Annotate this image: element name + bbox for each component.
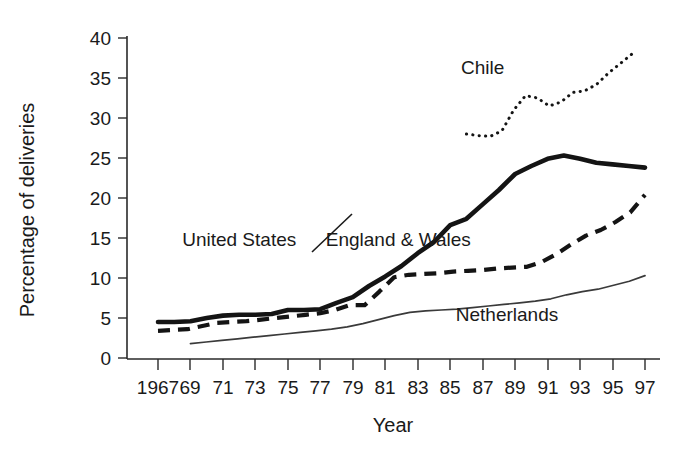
chart-canvas: Percentage of deliveries 40 35 30 25 20 …	[0, 0, 688, 457]
series-line-netherlands	[190, 276, 645, 344]
y-axis-ticks	[118, 38, 127, 358]
x-tick-label-85: 85	[439, 377, 460, 398]
y-tick-label-15: 15	[90, 228, 111, 249]
x-tick-label-97: 97	[634, 377, 655, 398]
x-tick-label-71: 71	[212, 377, 233, 398]
x-tick-label-87: 87	[472, 377, 493, 398]
chart-figure: Percentage of deliveries 40 35 30 25 20 …	[0, 0, 688, 457]
x-tick-label-83: 83	[407, 377, 428, 398]
y-tick-label-0: 0	[100, 348, 111, 369]
y-axis-tick-labels: 40 35 30 25 20 15 10 5 0	[90, 28, 111, 369]
x-tick-label-95: 95	[602, 377, 623, 398]
x-tick-label-91: 91	[537, 377, 558, 398]
y-tick-label-40: 40	[90, 28, 111, 49]
series-label-united-states: United States	[182, 229, 296, 250]
x-tick-label-73: 73	[244, 377, 265, 398]
y-tick-label-30: 30	[90, 108, 111, 129]
x-tick-label-89: 89	[504, 377, 525, 398]
x-tick-label-81: 81	[374, 377, 395, 398]
series-group	[158, 54, 645, 344]
x-tick-label-93: 93	[569, 377, 590, 398]
x-tick-label-1967: 1967	[137, 377, 179, 398]
y-tick-label-20: 20	[90, 188, 111, 209]
x-tick-label-75: 75	[277, 377, 298, 398]
y-tick-label-5: 5	[100, 308, 111, 329]
series-label-chile: Chile	[461, 57, 504, 78]
x-tick-label-79: 79	[342, 377, 363, 398]
x-axis-ticks	[158, 359, 645, 370]
x-axis-title: Year	[373, 414, 414, 436]
y-tick-label-25: 25	[90, 148, 111, 169]
x-axis-tick-labels: 1967 69 71 73 75 77 79 81 83 85 87 89 91…	[137, 377, 656, 398]
series-label-england-wales: England & Wales	[326, 229, 471, 250]
x-tick-label-77: 77	[309, 377, 330, 398]
x-tick-label-69: 69	[179, 377, 200, 398]
y-tick-label-35: 35	[90, 68, 111, 89]
y-axis-title: Percentage of deliveries	[16, 103, 38, 318]
series-line-england-wales	[158, 195, 645, 331]
series-label-netherlands: Netherlands	[456, 304, 558, 325]
y-tick-label-10: 10	[90, 268, 111, 289]
